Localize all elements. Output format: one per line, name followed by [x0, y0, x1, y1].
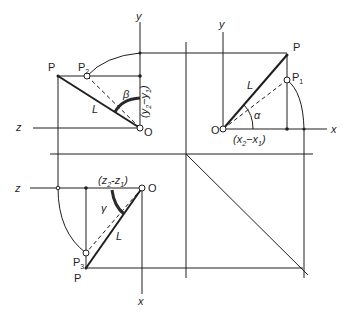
projection-line-side [87, 76, 140, 128]
point-p1 [284, 77, 290, 83]
x-axis-label-front: x [330, 123, 337, 135]
projection-diagram: y z P P2 O L β (y2−y1) y x P P1 [0, 0, 350, 321]
label-l-side: L [92, 103, 98, 115]
point-p3 [83, 250, 89, 256]
point-marker [84, 186, 88, 190]
label-p3: P3 [73, 256, 84, 270]
dimension-y-label: (y2−y1) [138, 85, 152, 118]
point-marker [138, 74, 142, 78]
projection-line-front [223, 80, 287, 129]
point-marker [303, 128, 306, 131]
label-p-side: P [48, 61, 55, 73]
front-view: y x P P1 O L α (x2−x1) [211, 18, 337, 147]
x-axis-label-top: x [137, 295, 144, 307]
label-o-top: O [148, 182, 157, 194]
label-gamma: γ [101, 202, 108, 214]
label-beta: β [122, 88, 130, 100]
label-l-front: L [247, 79, 253, 91]
rotation-arc-front [287, 80, 304, 129]
z-axis-label-side: z [15, 121, 22, 133]
miter-line [186, 154, 308, 275]
dimension-x-label: (x2−x1) [233, 133, 266, 147]
y-axis-label-front: y [218, 18, 226, 30]
point-p-top [85, 267, 88, 270]
label-o-side: O [144, 126, 153, 138]
label-p-front: P [293, 41, 300, 53]
point-marker [285, 127, 289, 131]
rotation-arc-top [58, 188, 86, 253]
point-marker [139, 52, 142, 55]
label-p1: P1 [292, 71, 303, 85]
point-p-front [286, 54, 289, 57]
label-alpha: α [254, 109, 261, 121]
dimension-z-label: (z2-z1) [98, 174, 128, 188]
gamma-angle-arc [112, 190, 124, 214]
y-axis-label-side: y [135, 10, 143, 22]
point-marker [56, 186, 60, 190]
point-p-side [57, 75, 60, 78]
label-o-front: O [211, 124, 220, 136]
origin-front [220, 126, 226, 132]
label-l-top: L [116, 230, 122, 242]
rotation-arc-side [87, 53, 140, 76]
alpha-angle-arc [244, 105, 253, 129]
top-view: z x P P3 O L γ (z2-z1) [14, 174, 157, 307]
label-p-top: P [74, 272, 81, 284]
origin-top [139, 185, 145, 191]
label-p2: P2 [78, 61, 89, 75]
side-view: y z P P2 O L β (y2−y1) [15, 10, 153, 138]
origin-side [137, 125, 143, 131]
z-axis-label-top: z [14, 182, 21, 194]
beta-angle-arc [115, 98, 140, 112]
